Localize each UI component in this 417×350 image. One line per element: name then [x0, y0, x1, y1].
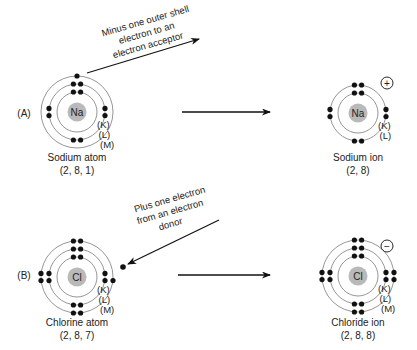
- chloride-ion-electron: [383, 277, 388, 282]
- chloride-ion-electron: [359, 253, 364, 258]
- chloride-ion-electron: [359, 301, 364, 306]
- chloride-ion-electron: [352, 309, 357, 314]
- sodium-atom-model: Na(K)(L)(M): [41, 73, 114, 150]
- chloride-ion-electron: [391, 270, 396, 275]
- chlorine-atom-electron: [102, 278, 107, 283]
- sodium-atom-nucleus-symbol: Na: [71, 107, 84, 118]
- sodium-atom-config: (2, 8, 1): [60, 165, 94, 176]
- sodium-atom-electron: [71, 137, 76, 142]
- chloride-ion-config: (2, 8, 8): [341, 330, 375, 341]
- chloride-ion-electron: [359, 245, 364, 250]
- sodium-ion-electron: [352, 138, 357, 143]
- sodium-atom-electron: [78, 89, 83, 94]
- sodium-atom-electron: [71, 81, 76, 86]
- chlorine-atom-electron: [71, 254, 76, 259]
- sodium-ion-electron: [359, 82, 364, 87]
- row-label-a: (A): [17, 108, 30, 119]
- chlorine-atom-electron: [71, 302, 76, 307]
- sodium-atom-electron: [78, 81, 83, 86]
- chlorine-atom-electron: [46, 278, 51, 283]
- chlorine-atom-name: Chlorine atom: [46, 317, 108, 328]
- diagram-canvas: (A) (B) Minus one outer shell electron t…: [0, 0, 417, 350]
- sodium-ion-electron: [359, 138, 364, 143]
- chlorine-atom-model: Cl(K)(L)(M): [38, 238, 115, 315]
- sodium-atom-electron: [78, 137, 83, 142]
- sodium-atom-electron: [74, 73, 79, 78]
- sodium-ion-electron: [327, 114, 332, 119]
- chlorine-atom-nucleus-symbol: Cl: [72, 272, 81, 283]
- sodium-ion-electron: [327, 107, 332, 112]
- sodium-ion-nucleus-symbol: Na: [352, 108, 365, 119]
- chloride-ion-electron: [352, 301, 357, 306]
- sodium-ion-shell-label-l: (L): [380, 130, 392, 141]
- sodium-ion-name: Sodium ion: [333, 152, 383, 163]
- chloride-ion-name: Chloride ion: [331, 317, 384, 328]
- sodium-ion-electron: [352, 82, 357, 87]
- sodium-atom-shell-label-m: (M): [100, 139, 114, 150]
- row-label-b: (B): [17, 270, 30, 281]
- chloride-ion-nucleus-symbol: Cl: [353, 271, 362, 282]
- chloride-ion-electron: [391, 277, 396, 282]
- chlorine-atom-config: (2, 8, 7): [60, 330, 94, 341]
- sodium-atom-electron: [102, 113, 107, 118]
- chloride-ion-electron: [352, 253, 357, 258]
- chloride-ion-model: Cl(K)(L)(M)−: [319, 237, 396, 314]
- chlorine-atom-electron: [78, 246, 83, 251]
- sodium-ion-config: (2, 8): [346, 165, 369, 176]
- chlorine-atom-electron: [38, 278, 43, 283]
- chloride-ion-electron: [319, 277, 324, 282]
- sodium-atom-electron: [46, 106, 51, 111]
- chlorine-atom-electron: [71, 246, 76, 251]
- chlorine-atom-electron: [38, 271, 43, 276]
- sodium-ion-electron: [359, 90, 364, 95]
- chloride-ion-electron: [383, 270, 388, 275]
- sodium-atom-electron: [46, 113, 51, 118]
- electron-loss-annotation: Minus one outer shell electron to an ele…: [100, 3, 196, 62]
- chlorine-atom-electron: [78, 302, 83, 307]
- chloride-ion-electron: [319, 270, 324, 275]
- ionic-bonding-diagram: (A) (B) Minus one outer shell electron t…: [0, 0, 417, 350]
- chlorine-atom-electron: [71, 238, 76, 243]
- sodium-ion-electron: [383, 114, 388, 119]
- chloride-ion-electron: [359, 309, 364, 314]
- chlorine-atom-electron: [78, 254, 83, 259]
- electron-gain-annotation: Plus one electron from an electron donor: [132, 184, 213, 238]
- chlorine-atom-electron: [78, 310, 83, 315]
- chloride-ion-negative-charge-icon: −: [384, 241, 390, 252]
- sodium-atom-electron: [71, 89, 76, 94]
- sodium-ion-electron: [383, 107, 388, 112]
- sodium-ion-electron: [352, 90, 357, 95]
- chloride-ion-electron: [327, 277, 332, 282]
- sodium-ion-positive-charge-icon: +: [384, 78, 390, 89]
- chlorine-atom-electron: [110, 278, 115, 283]
- chloride-ion-electron: [359, 237, 364, 242]
- chloride-ion-electron: [352, 245, 357, 250]
- sodium-ion-model: Na(K)(L)+: [327, 77, 393, 144]
- sodium-atom-name: Sodium atom: [48, 152, 107, 163]
- sodium-atom-electron: [102, 106, 107, 111]
- chloride-ion-shell-label-m: (M): [381, 303, 395, 314]
- incoming-electron: [120, 264, 126, 270]
- chlorine-atom-electron: [78, 238, 83, 243]
- chloride-ion-electron: [352, 237, 357, 242]
- chlorine-atom-electron: [71, 310, 76, 315]
- chloride-ion-electron: [327, 270, 332, 275]
- chlorine-atom-electron: [102, 271, 107, 276]
- chlorine-atom-shell-label-m: (M): [100, 304, 114, 315]
- chlorine-atom-electron: [46, 271, 51, 276]
